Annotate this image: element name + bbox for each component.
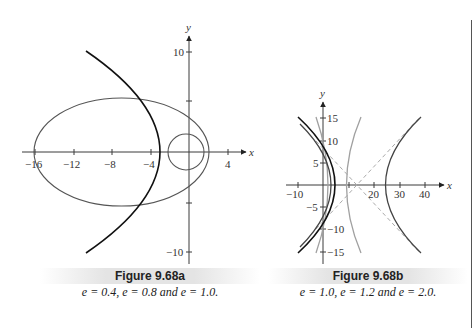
y-tick-label: −15 — [327, 246, 345, 258]
y-tick-label: 10 — [173, 46, 185, 58]
asymptote-2 — [316, 117, 420, 229]
figure-b-title: Figure 9.68b — [278, 269, 458, 283]
figure-a-subtitle: e = 0.4, e = 0.8 and e = 1.0. — [40, 285, 260, 300]
x-tick-label: 40 — [419, 188, 431, 200]
y-tick-label: 5 — [313, 157, 319, 169]
y-tick-label: 10 — [327, 135, 339, 147]
figure-a-plot: −16 −12 −8 −4 4 10 −10 x y — [22, 21, 254, 264]
x-axis-label: x — [248, 146, 254, 158]
y-tick-label: −10 — [166, 246, 184, 258]
x-tick-label: 30 — [394, 188, 406, 200]
figure-a-title: Figure 9.68a — [60, 269, 240, 283]
y-axis-label: y — [319, 87, 325, 99]
page-divider — [471, 20, 472, 328]
x-axis-label: x — [446, 179, 452, 191]
x-tick-label: 4 — [225, 158, 231, 170]
x-tick-label: −12 — [63, 158, 80, 170]
figure-b-subtitle: e = 1.0, e = 1.2 and e = 2.0. — [268, 285, 468, 300]
x-tick-label: −16 — [25, 158, 43, 170]
y-tick-label: −5 — [306, 201, 318, 213]
y-tick-label: 15 — [327, 112, 339, 124]
x-tick-label: −10 — [286, 188, 304, 200]
figure-b-plot: −10 20 30 40 15 10 5 −5 −10 −15 x y — [286, 87, 452, 264]
x-tick-label: −8 — [104, 158, 116, 170]
y-tick-label: −10 — [327, 223, 345, 235]
x-tick-label: −4 — [143, 158, 155, 170]
y-axis-label: y — [185, 21, 191, 33]
